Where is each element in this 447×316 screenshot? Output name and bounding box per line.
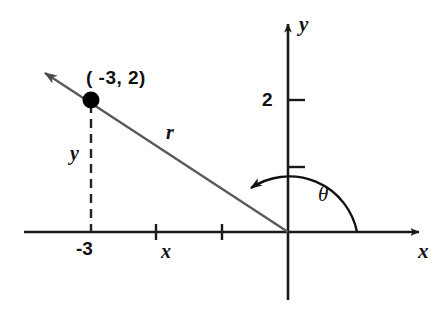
y-axis-label: y — [299, 14, 308, 35]
ray-r — [45, 73, 288, 232]
x-axis-label: x — [418, 241, 429, 262]
hypotenuse-r-label: r — [166, 122, 174, 142]
figure-canvas: y x 2 -3 ( -3, 2) y x r θ — [0, 0, 447, 316]
leg-y-label: y — [70, 143, 79, 163]
point-coordinate-label: ( -3, 2) — [86, 68, 146, 87]
leg-x-label: x — [161, 241, 171, 261]
angle-arc-theta — [251, 176, 357, 232]
y-tick-label-2: 2 — [262, 90, 273, 109]
plotted-point-dot — [83, 92, 100, 109]
x-tick-label-minus3: -3 — [76, 239, 93, 258]
angle-theta-label: θ — [318, 184, 328, 205]
diagram-svg — [0, 0, 447, 316]
